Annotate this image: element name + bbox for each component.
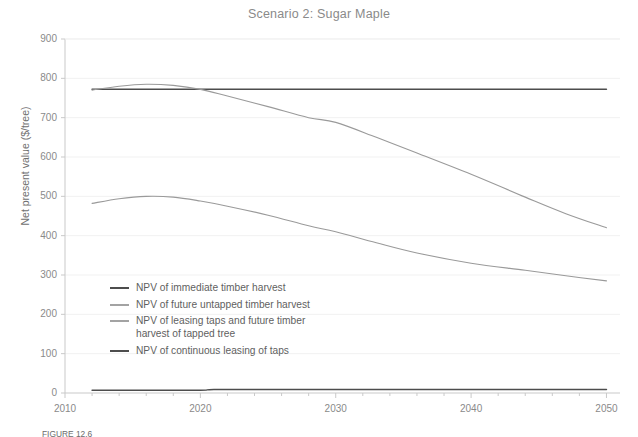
legend-swatch-line-icon [110, 287, 129, 289]
series-line-3 [92, 389, 606, 390]
legend-swatch-line-icon [110, 304, 129, 306]
series-line-2 [92, 196, 606, 281]
legend-swatch-line-icon [110, 320, 129, 322]
legend-item-label: NPV of immediate timber harvest [136, 281, 285, 294]
legend-item[interactable]: NPV of leasing taps and future timber ha… [110, 314, 360, 341]
legend-swatch-line-icon [110, 350, 129, 352]
series-line-1 [92, 84, 606, 228]
legend-item-label: NPV of future untapped timber harvest [136, 298, 310, 311]
legend: NPV of immediate timber harvestNPV of fu… [110, 281, 360, 360]
legend-item-label: NPV of continuous leasing of taps [136, 344, 289, 357]
figure-caption: FIGURE 12.6 [42, 429, 602, 437]
plot-area [0, 0, 638, 437]
legend-item[interactable]: NPV of future untapped timber harvest [110, 298, 360, 312]
figure-container: Scenario 2: Sugar Maple Net present valu… [0, 0, 638, 437]
legend-item[interactable]: NPV of immediate timber harvest [110, 281, 360, 295]
legend-item-label: NPV of leasing taps and future timber ha… [136, 314, 305, 340]
legend-item[interactable]: NPV of continuous leasing of taps [110, 344, 360, 358]
